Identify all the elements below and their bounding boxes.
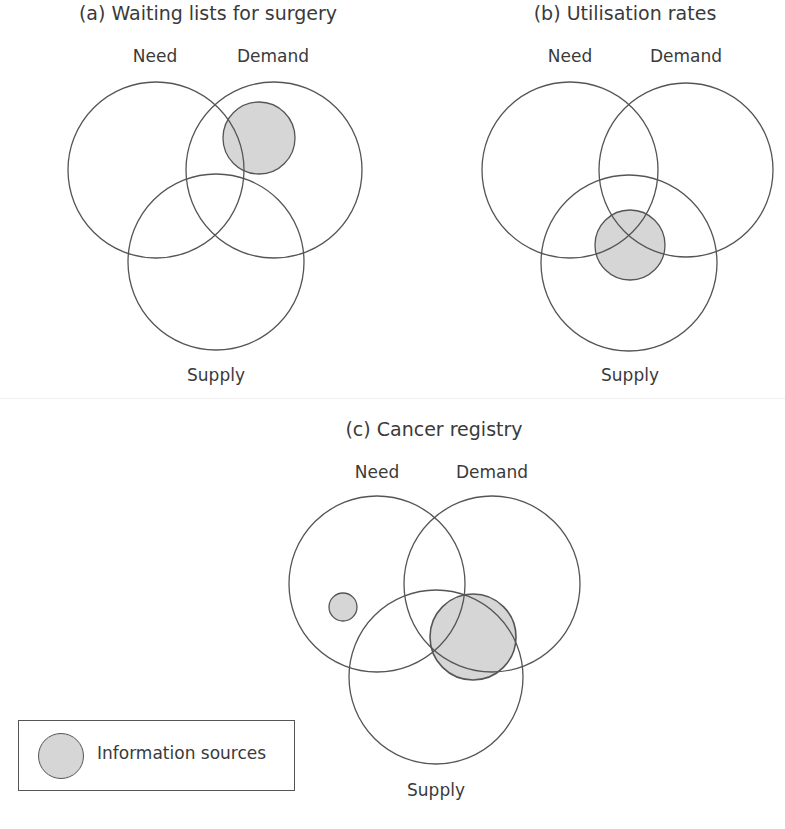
legend-swatch-icon bbox=[38, 733, 84, 779]
panel-a-circles bbox=[68, 82, 362, 350]
shaded-info-source bbox=[595, 210, 665, 280]
panel-a-demand-label: Demand bbox=[237, 46, 309, 66]
panel-c-need-label: Need bbox=[355, 462, 399, 482]
panel-b-supply-label: Supply bbox=[601, 365, 659, 385]
shaded-info-source-small bbox=[329, 593, 357, 621]
panel-c-demand-label: Demand bbox=[456, 462, 528, 482]
panel-a-title: (a) Waiting lists for surgery bbox=[79, 2, 337, 24]
panel-a-need-label: Need bbox=[133, 46, 177, 66]
need-circle bbox=[68, 82, 244, 258]
panel-c-circles bbox=[289, 496, 580, 764]
shaded-info-source bbox=[223, 102, 295, 174]
shaded-info-source-large bbox=[430, 594, 516, 680]
supply-circle bbox=[128, 174, 304, 350]
panel-c-supply-label: Supply bbox=[407, 780, 465, 800]
legend-label: Information sources bbox=[97, 743, 266, 763]
panel-b-demand-label: Demand bbox=[650, 46, 722, 66]
panel-c-title: (c) Cancer registry bbox=[345, 418, 522, 440]
panel-b-need-label: Need bbox=[548, 46, 592, 66]
panel-a-supply-label: Supply bbox=[187, 365, 245, 385]
panel-b-circles bbox=[482, 82, 773, 351]
venn-diagrams bbox=[0, 0, 785, 829]
legend: Information sources bbox=[18, 720, 295, 791]
panel-b-title: (b) Utilisation rates bbox=[534, 2, 717, 24]
